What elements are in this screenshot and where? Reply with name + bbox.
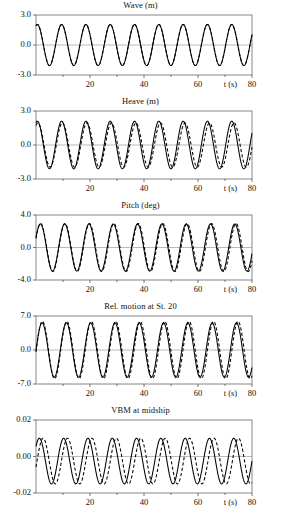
chart-panel: Wave (m)3.00.0-3.020406080t (s): [0, 0, 281, 96]
y-axis-tick-label: 0.0: [0, 40, 31, 49]
y-axis-tick-label: 3.0: [0, 106, 31, 115]
x-axis-title: t (s): [214, 184, 246, 193]
chart-panel: Pitch (deg)4.00.0-4.020406080t (s): [0, 200, 281, 301]
x-axis-tick-label: 40: [130, 184, 158, 193]
x-axis-tick-label: 60: [184, 184, 212, 193]
y-axis-tick-label: -0.02: [0, 488, 31, 497]
x-axis-tick-label: 60: [184, 285, 212, 294]
x-axis-tick-label: 40: [130, 389, 158, 398]
y-axis-tick-label: 7.0: [0, 311, 31, 320]
x-axis-title: t (s): [214, 285, 246, 294]
y-axis-tick-label: 0.0: [0, 345, 31, 354]
panel-title: Heave (m): [0, 96, 281, 107]
x-axis-title: t (s): [214, 498, 246, 507]
chart-panel: Heave (m)3.00.0-3.020406080t (s): [0, 96, 281, 200]
x-axis-tick-label: 40: [130, 498, 158, 507]
chart-panel: Rel. motion at St. 207.00.0-7.020406080t…: [0, 301, 281, 405]
panel-title: Rel. motion at St. 20: [0, 301, 281, 312]
panel-title: Pitch (deg): [0, 200, 281, 211]
chart-panel: VBM at midship0.020.00-0.0220406080t (s): [0, 405, 281, 514]
x-axis-title: t (s): [214, 389, 246, 398]
y-axis-tick-label: 0.02: [0, 415, 31, 424]
figure-container: Wave (m)3.00.0-3.020406080t (s)Heave (m)…: [0, 0, 281, 514]
y-axis-tick-label: -4.0: [0, 275, 31, 284]
x-axis-title: t (s): [214, 80, 246, 89]
y-axis-tick-label: -7.0: [0, 379, 31, 388]
y-axis-tick-label: 0.0: [0, 140, 31, 149]
x-axis-tick-label: 60: [184, 498, 212, 507]
y-axis-tick-label: 0.00: [0, 452, 31, 461]
plot-area: 0.020.00-0.0220406080t (s): [0, 416, 281, 513]
x-axis-tick-label: 20: [76, 285, 104, 294]
series-line-dashed: [36, 438, 252, 484]
x-axis-tick-label: 20: [76, 498, 104, 507]
x-axis-tick-label: 40: [130, 80, 158, 89]
y-axis-tick-label: 4.0: [0, 210, 31, 219]
plot-area: 3.00.0-3.020406080t (s): [0, 11, 281, 95]
x-axis-tick-label: 20: [76, 184, 104, 193]
x-axis-tick-label: 20: [76, 80, 104, 89]
x-axis-tick-label: 60: [184, 389, 212, 398]
panel-title: Wave (m): [0, 0, 281, 11]
plot-area: 3.00.0-3.020406080t (s): [0, 107, 281, 199]
x-axis-tick-label: 20: [76, 389, 104, 398]
x-axis-tick-label: 60: [184, 80, 212, 89]
y-axis-tick-label: -3.0: [0, 70, 31, 79]
panel-title: VBM at midship: [0, 405, 281, 416]
x-axis-tick-label: 40: [130, 285, 158, 294]
plot-area: 4.00.0-4.020406080t (s): [0, 211, 281, 300]
y-axis-tick-label: 0.0: [0, 243, 31, 252]
y-axis-tick-label: -3.0: [0, 174, 31, 183]
plot-area: 7.00.0-7.020406080t (s): [0, 312, 281, 404]
y-axis-tick-label: 3.0: [0, 10, 31, 19]
